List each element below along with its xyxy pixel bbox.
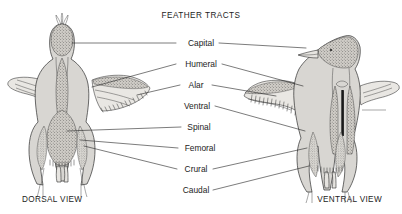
leader-crural-left bbox=[84, 146, 177, 169]
label-femoral: Femoral bbox=[185, 143, 216, 153]
dorsal-bird-illustration bbox=[8, 13, 150, 197]
leader-caudal-right bbox=[213, 166, 309, 190]
diagram-canvas: FEATHER TRACTS bbox=[0, 0, 402, 214]
caption-dorsal-view: DORSAL VIEW bbox=[22, 195, 82, 204]
label-caudal: Caudal bbox=[183, 185, 210, 195]
label-humeral: Humeral bbox=[185, 59, 217, 69]
crural-tract-ventral-right bbox=[332, 172, 336, 188]
caption-ventral-view: VENTRAL VIEW bbox=[317, 195, 382, 204]
capital-tract-dorsal bbox=[51, 24, 73, 56]
leader-crural-right bbox=[213, 148, 307, 169]
label-ventral: Ventral bbox=[184, 101, 210, 111]
diagram-title: FEATHER TRACTS bbox=[162, 11, 241, 20]
crural-tract-right bbox=[64, 166, 68, 182]
ventral-bird-illustration bbox=[244, 36, 399, 203]
sternal-apterium bbox=[341, 90, 344, 136]
eye bbox=[330, 49, 332, 51]
crural-tract-ventral-left bbox=[324, 172, 329, 188]
ventral-left-wing bbox=[244, 80, 298, 115]
label-spinal: Spinal bbox=[187, 122, 210, 132]
label-alar: Alar bbox=[189, 80, 204, 90]
beak bbox=[298, 50, 318, 58]
label-capital: Capital bbox=[188, 38, 214, 48]
tract-labels: Capital Humeral Alar Ventral Spinal Femo… bbox=[183, 38, 217, 195]
dorsal-right-wing bbox=[92, 75, 150, 112]
label-crural: Crural bbox=[185, 164, 208, 174]
leader-capital-right bbox=[219, 43, 306, 48]
feather-tracts-diagram: FEATHER TRACTS bbox=[0, 0, 402, 214]
ventral-right-wing bbox=[359, 81, 399, 105]
crural-tract-left bbox=[56, 166, 61, 182]
